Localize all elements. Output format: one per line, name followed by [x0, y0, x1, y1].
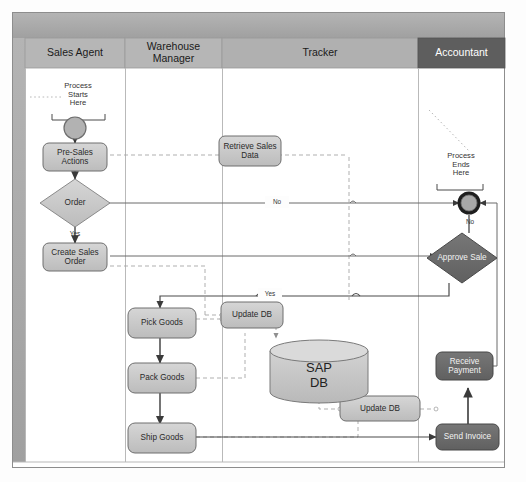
node-ship-goods [128, 423, 196, 453]
node-pack-goods [128, 363, 196, 393]
lane-header-sales-agent [25, 38, 125, 68]
node-create-sales-order [43, 243, 107, 271]
node-receive-payment [436, 352, 493, 380]
node-send-invoice [436, 424, 499, 450]
lane-header-tracker [222, 38, 418, 68]
node-pre-sales-actions [43, 143, 107, 171]
node-start-event [64, 117, 86, 139]
lane-header-warehouse-manager [125, 38, 222, 68]
node-pick-goods [128, 308, 196, 338]
node-sap-db [270, 340, 368, 403]
pool-frame [13, 13, 505, 468]
node-retrieve-sales-data [219, 136, 281, 166]
diagram-svg [0, 0, 526, 482]
diagram-canvas: Sales Agent Warehouse Manager Tracker Ac… [0, 0, 526, 482]
node-update-db-1 [221, 302, 283, 328]
node-end-event [458, 192, 481, 215]
lane-header-accountant [418, 38, 505, 68]
lane-headers [25, 38, 505, 68]
